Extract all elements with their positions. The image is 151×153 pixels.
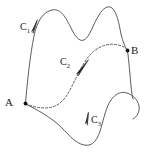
figure-canvas: A B C1 C2 C3	[0, 0, 151, 153]
curve-right-connector-path	[128, 51, 134, 100]
curve-label-c3-subscript: 3	[98, 120, 101, 127]
curve-label-c1-subscript: 1	[27, 27, 30, 34]
curve-label-c2: C2	[60, 57, 70, 70]
c2-arrow-shaft	[79, 61, 88, 75]
point-a-dot	[24, 102, 28, 106]
curve-c1-path	[26, 7, 128, 103]
curve-label-c3: C3	[91, 115, 101, 128]
c3-arrow-shaft	[87, 114, 88, 125]
curve-label-c3-base: C	[91, 114, 98, 125]
curve-label-c2-subscript: 2	[67, 62, 70, 69]
curve-label-c1-base: C	[20, 21, 27, 32]
point-label-a: A	[5, 97, 13, 108]
curve-label-c2-base: C	[60, 56, 67, 67]
point-b-dot	[126, 49, 130, 53]
curve-c3-path	[26, 92, 140, 145]
point-label-b: B	[131, 45, 138, 56]
curve-label-c1: C1	[20, 22, 30, 35]
